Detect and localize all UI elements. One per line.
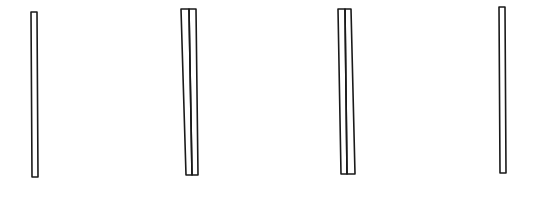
stick-pair-3 <box>338 9 355 174</box>
stick-4 <box>499 7 506 173</box>
stick-pair-2 <box>181 9 198 175</box>
stick-outline <box>345 9 355 174</box>
sketch-canvas <box>0 0 534 212</box>
stick-outline <box>499 7 506 173</box>
stick-outline <box>189 9 198 175</box>
hand-drawn-sticks-sketch <box>0 0 534 212</box>
stick-outline <box>31 12 38 177</box>
stick-1 <box>31 12 38 177</box>
